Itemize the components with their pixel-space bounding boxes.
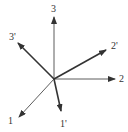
axis-3p-arrow xyxy=(18,43,54,79)
axis-2p-label: 2' xyxy=(111,40,118,51)
coordinate-frames-diagram: 1231'2'3' xyxy=(0,0,128,132)
axis-2-label: 2 xyxy=(119,73,124,84)
axis-1-arrow xyxy=(19,79,54,117)
axis-3-label: 3 xyxy=(51,3,56,14)
axis-1p-arrow xyxy=(54,79,61,111)
axis-3p-label: 3' xyxy=(9,31,16,42)
axis-2p-arrow xyxy=(54,50,106,79)
axis-1p-label: 1' xyxy=(60,118,67,129)
axis-1-label: 1 xyxy=(8,115,13,126)
